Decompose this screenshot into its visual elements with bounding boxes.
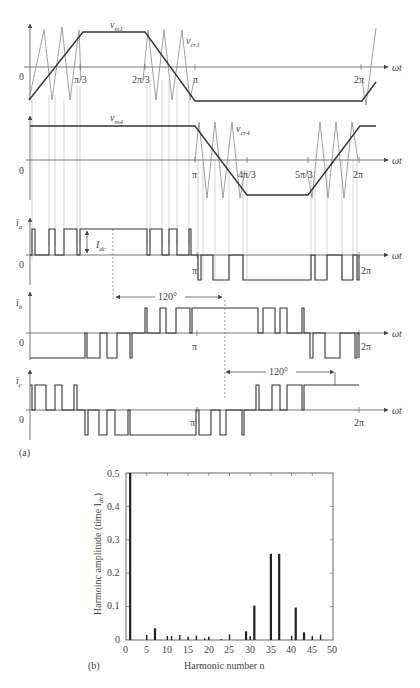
harmonic-bar <box>167 636 168 640</box>
ytick-0-4: 0.4 <box>107 501 120 512</box>
plot-ia: 0 π 2π ωt ia Idc <box>16 217 402 300</box>
harmonic-bar <box>303 632 305 640</box>
ic-label: ic <box>16 375 23 389</box>
bars <box>129 473 321 640</box>
plot-ib: 120° 0 π 2π ωt ib <box>16 290 402 400</box>
plot-ic: 120° 0 π 2π ωt ic (a) <box>16 365 402 459</box>
xtick-35: 35 <box>266 644 276 655</box>
x-axis-label: ωt <box>392 328 402 339</box>
x-axis-label: ωt <box>392 155 402 166</box>
harmonic-bar <box>253 606 255 640</box>
tick-4pi-3: 4π/3 <box>238 169 256 180</box>
harmonic-chart: 0.5 0.4 0.3 0.2 0.1 0 0 5 10 15 20 25 30… <box>88 468 337 672</box>
ytick-0-1: 0.1 <box>107 600 120 611</box>
tick-0: 0 <box>19 414 24 425</box>
harmonic-bar <box>295 608 297 640</box>
tick-2pi: 2π <box>354 74 364 85</box>
xtick-45: 45 <box>307 644 317 655</box>
y-axis-title: Harmoinc amplitude (time Idc) <box>92 493 105 615</box>
plot-vm1: 0 π/3 2π/3 π 2π ωt vm1 vcr1 <box>19 19 402 105</box>
xtick-50: 50 <box>327 644 337 655</box>
tick-2pi-3: 2π/3 <box>132 74 150 85</box>
tick-0: 0 <box>19 165 24 176</box>
ytick-0-3: 0.3 <box>107 534 120 545</box>
panel-a-label: (a) <box>19 447 30 459</box>
harmonic-bar <box>229 634 230 640</box>
vm4-label: vm4 <box>110 112 124 126</box>
switching-guides <box>32 80 357 280</box>
tick-5pi-3: 5π/3 <box>295 169 313 180</box>
tick-0: 0 <box>19 259 24 270</box>
harmonic-bar <box>208 637 209 640</box>
harmonic-bar <box>146 635 147 640</box>
vm1-label: vm1 <box>110 19 123 33</box>
x-axis-label: ωt <box>392 405 402 416</box>
harmonic-bar <box>204 638 205 640</box>
harmonic-bar <box>250 636 251 640</box>
idc-label: Idc <box>95 239 107 253</box>
shift-label-2: 120° <box>269 366 288 377</box>
plot-vm4: 0 π 4π/3 5π/3 2π ωt vm4 vcr4 <box>19 112 402 200</box>
harmonic-bar <box>270 554 272 640</box>
harmonic-bar <box>291 636 292 640</box>
tick-2pi: 2π <box>361 341 371 352</box>
harmonic-bar <box>312 636 313 640</box>
x-axis-label: ωt <box>392 250 402 261</box>
tick-2pi: 2π <box>361 265 371 276</box>
harmonic-bar <box>154 628 156 640</box>
xtick-20: 20 <box>204 644 214 655</box>
xtick-5: 5 <box>144 644 149 655</box>
tick-pi: π <box>192 169 197 180</box>
x-ticks <box>147 473 313 640</box>
ia-label: ia <box>16 217 23 231</box>
tick-2pi: 2π <box>353 169 363 180</box>
ytick-0-5: 0.5 <box>107 468 120 479</box>
ytick-0-2: 0.2 <box>107 567 120 578</box>
x-axis-label: ωt <box>392 62 402 73</box>
harmonic-bar <box>179 635 180 640</box>
harmonic-bar <box>129 473 131 640</box>
tick-0: 0 <box>19 337 24 348</box>
tick-pi-3: π/3 <box>74 74 87 85</box>
harmonic-bar <box>245 631 247 640</box>
tick-pi: π <box>190 417 195 428</box>
figure: 0 π/3 2π/3 π 2π ωt vm1 vcr1 0 π 4π/3 5π/… <box>0 0 420 688</box>
xtick-25: 25 <box>224 644 234 655</box>
ib-label: ib <box>16 297 23 311</box>
x-axis-title: Harmonic number n <box>184 660 265 671</box>
harmonic-bar <box>187 637 188 640</box>
ytick-0: 0 <box>115 634 120 645</box>
shift-label-1: 120° <box>158 291 177 302</box>
harmonic-bar <box>278 554 280 640</box>
tick-pi: π <box>192 265 197 276</box>
xtick-0: 0 <box>123 644 128 655</box>
panel-b-label: (b) <box>88 660 100 672</box>
vcr1-label: vcr1 <box>186 35 200 49</box>
tick-pi: π <box>192 341 197 352</box>
harmonic-bar <box>320 635 321 640</box>
vcr4-label: vcr4 <box>236 123 250 137</box>
harmonic-bar <box>196 636 197 640</box>
tick-2pi: 2π <box>354 417 364 428</box>
xtick-15: 15 <box>183 644 193 655</box>
harmonic-bar <box>171 636 172 640</box>
xtick-40: 40 <box>286 644 296 655</box>
y-ticks <box>126 506 333 606</box>
xtick-10: 10 <box>162 644 172 655</box>
xtick-30: 30 <box>245 644 255 655</box>
harmonic-bar <box>221 639 222 640</box>
tick-pi: π <box>193 74 198 85</box>
tick-0: 0 <box>19 71 24 82</box>
